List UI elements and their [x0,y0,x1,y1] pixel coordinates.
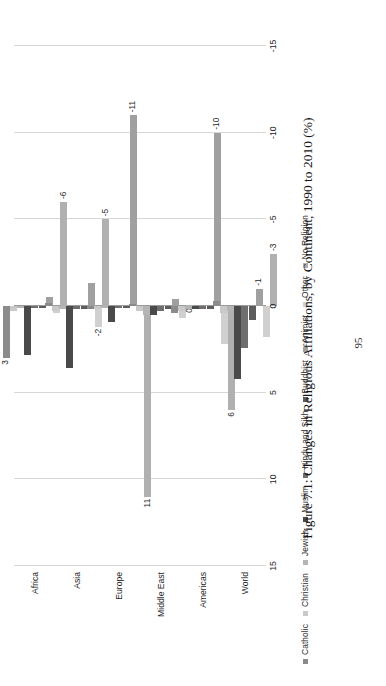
chart-bar [102,219,109,306]
chart-gridline [14,132,266,133]
chart-bar [234,306,241,379]
chart-bar-value-label: 6 [228,412,235,424]
chart-category-label: Asia [72,572,82,589]
chart-bar [73,306,80,309]
chart-bar [199,306,206,309]
chart-bar [123,306,130,308]
chart-bar-value-label: -2 [95,329,102,341]
chart-bar-value-label: -1 [255,278,262,285]
chart-bar [94,306,101,309]
chart-bar [130,115,137,306]
chart-gridline [14,45,266,46]
chart-bar [108,306,115,322]
chart-bar [150,306,157,315]
chart-bar [129,304,136,306]
chart-bar-value-label: 11 [144,499,151,511]
chart-bar [144,306,151,497]
chart-bar [31,306,38,308]
rotated-page-canvas: 3-6-2-5-11110-106-1-3 151050-5-10-15 Afr… [0,0,386,686]
chart-bar [143,306,150,315]
chart-bar-value-label: -5 [102,209,109,216]
chart-bar-value-label: 0 [186,308,193,320]
chart-bar [220,306,227,313]
chart-bar [172,299,179,306]
chart-x-tick-label: -5 [268,216,278,224]
chart-x-tick-label: 0 [268,304,278,309]
chart-gridline [14,218,266,219]
chart-bar [88,283,95,306]
chart-category-label: Europe [114,572,124,600]
chart-gridline [14,565,266,566]
chart-bars-layer: 3-6-2-5-11110-106-1-3 [14,46,266,566]
chart-x-tick-label: 5 [268,390,278,395]
chart-bar [59,306,66,309]
chart-x-axis-ticks: 151050-5-10-15 [268,46,284,566]
chart-bar [24,306,31,355]
chart-bar [192,306,199,309]
chart-bar [213,301,220,306]
chart-bar [157,306,164,311]
chart-bar [178,306,185,311]
chart-bar [171,306,178,313]
chart-bar-value-label: -6 [60,192,67,199]
chart-bar [185,306,192,309]
chart-plot-area: 3-6-2-5-11110-106-1-3 [14,46,266,566]
chart-bar [136,306,143,311]
chart-bar-value-label: 3 [2,360,9,372]
page-number: 95 [352,0,364,686]
chart-x-tick-label: 10 [268,475,278,485]
chart-bar [249,306,256,320]
chart-bar [60,202,67,306]
chart-bar [207,306,214,309]
figure-caption: Figure 7.1: Changes in Religious Affilia… [300,0,316,686]
chart-category-labels: AfricaAsiaEuropeMiddle EastAmericasWorld [14,570,266,616]
chart-category-label: Africa [30,572,40,594]
chart-bar [66,306,73,368]
chart-bar [45,303,52,306]
chart-x-tick-label: -15 [268,40,278,52]
chart-category-label: Americas [198,572,208,608]
chart-bar [241,306,248,348]
chart-x-tick-label: -10 [268,126,278,138]
chart-bar [214,133,221,306]
chart-bar [115,306,122,308]
chart-bar [52,306,59,311]
chart-bar [39,306,46,308]
chart-bar [10,306,17,311]
figure-caption-text: Figure 7.1: Changes in Religious Affilia… [300,117,315,568]
chart-bar [17,306,24,308]
chart-bar-value-label: -11 [129,101,136,112]
chart-category-label: World [240,572,250,594]
chart-gridline [14,478,266,479]
chart-bar [256,289,263,306]
chart-bar [101,306,108,308]
chart-bar [3,306,10,358]
chart-category-label: Middle East [156,572,166,617]
chart-x-tick-label: 15 [268,561,278,571]
chart-bar-value-label: -10 [213,118,220,130]
chart-bar [227,306,234,311]
chart-bar [87,306,94,309]
